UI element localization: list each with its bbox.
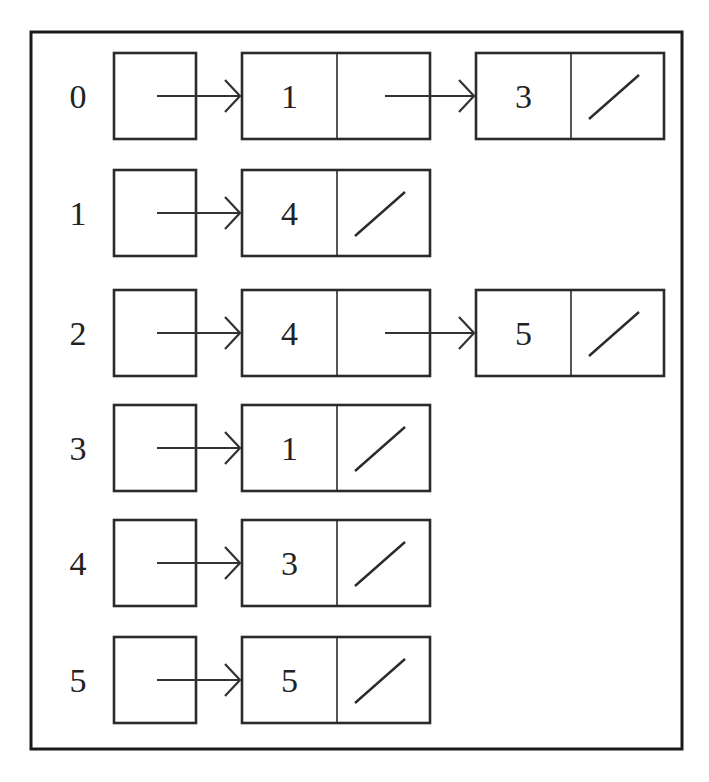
list-node: 3 [476, 53, 664, 139]
node-value: 3 [281, 545, 298, 582]
adjacency-row-0: 013 [70, 53, 665, 139]
adjacency-row-3: 31 [70, 405, 431, 491]
list-node: 4 [242, 170, 430, 256]
node-value: 4 [281, 315, 298, 352]
vertex-index-label: 5 [70, 662, 87, 699]
node-value: 1 [281, 430, 298, 467]
adjacency-row-1: 14 [70, 170, 431, 256]
vertex-index-label: 4 [70, 545, 87, 582]
node-value: 1 [281, 78, 298, 115]
list-node: 5 [476, 290, 664, 376]
node-box [242, 637, 430, 723]
vertex-index-label: 0 [70, 78, 87, 115]
adjacency-row-5: 55 [70, 637, 431, 723]
node-box [242, 170, 430, 256]
node-value: 5 [515, 315, 532, 352]
node-box [242, 520, 430, 606]
node-value: 5 [281, 662, 298, 699]
vertex-index-label: 2 [70, 315, 87, 352]
adjacency-row-2: 245 [70, 290, 665, 376]
adjacency-row-4: 43 [70, 520, 431, 606]
adjacency-list-diagram: 01314245314355 [0, 0, 709, 782]
list-node: 3 [242, 520, 430, 606]
node-box [476, 290, 664, 376]
list-node: 1 [242, 405, 430, 491]
node-box [242, 405, 430, 491]
vertex-index-label: 3 [70, 430, 87, 467]
list-node: 5 [242, 637, 430, 723]
vertex-index-label: 1 [70, 195, 87, 232]
node-value: 4 [281, 195, 298, 232]
node-box [476, 53, 664, 139]
node-value: 3 [515, 78, 532, 115]
